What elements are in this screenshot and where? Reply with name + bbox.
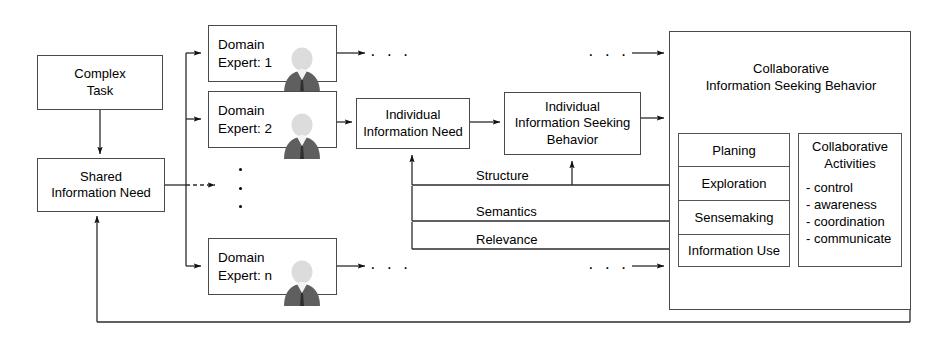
planning-column: Planing Exploration Sensemaking Informat… [678,133,790,267]
diagram-canvas: Complex Task Shared Information Need Dom… [0,0,945,341]
ellipsis-top-right: · · · [588,46,629,63]
ellipsis-bottom-right: · · · [588,259,629,276]
edge-label-semantics: Semantics [470,204,543,219]
node-domain-expert-2-label: Domain Expert: 2 [218,102,272,137]
cisb-title: Collaborative Information Seeking Behavi… [670,61,912,95]
node-shared-information-need-label: Shared Information Need [51,169,151,202]
node-individual-information-seeking-behavior[interactable]: Individual Information Seeking Behavior [504,92,641,155]
collaborative-activities-list: - control - awareness - coordination - c… [799,173,901,248]
activity-item-communicate: - communicate [806,230,901,247]
activity-item-control: - control [806,179,901,196]
node-complex-task-label: Complex Task [74,66,125,99]
activity-item-awareness: - awareness [806,196,901,213]
node-domain-expert-n[interactable]: Domain Expert: n [208,238,337,295]
node-individual-information-need[interactable]: Individual Information Need [356,98,470,149]
planning-header: Planing [679,134,789,167]
collaborative-activities-header: Collaborative Activities [799,134,901,173]
ellipsis-bottom-left: · · · [370,259,411,276]
node-domain-expert-2[interactable]: Domain Expert: 2 [208,91,337,148]
ellipsis-top-left: · · · [370,46,411,63]
vertical-ellipsis [237,168,243,208]
person-icon [280,97,324,143]
node-domain-expert-n-label: Domain Expert: n [218,249,272,284]
collaborative-activities-column: Collaborative Activities - control - awa… [798,133,902,267]
node-individual-information-seeking-behavior-label: Individual Information Seeking Behavior [515,99,631,148]
person-icon [280,31,324,77]
planning-item-exploration[interactable]: Exploration [679,167,789,201]
edge-label-structure: Structure [470,168,535,183]
activity-item-coordination: - coordination [806,213,901,230]
node-domain-expert-1-label: Domain Expert: 1 [218,36,272,71]
planning-item-information-use[interactable]: Information Use [679,235,789,266]
node-shared-information-need[interactable]: Shared Information Need [37,158,165,212]
node-domain-expert-1[interactable]: Domain Expert: 1 [208,25,337,82]
edge-label-relevance: Relevance [470,232,543,247]
planning-item-sensemaking[interactable]: Sensemaking [679,201,789,235]
person-icon [280,244,324,290]
node-individual-information-need-label: Individual Information Need [363,107,463,140]
node-complex-task[interactable]: Complex Task [37,55,163,110]
